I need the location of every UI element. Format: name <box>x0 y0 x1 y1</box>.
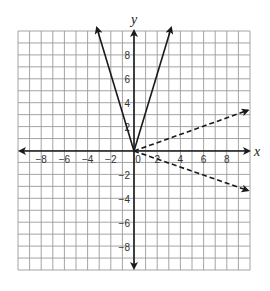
coordinate-plane: −8−6−4−2024688642−2−4−6−8 y x <box>0 0 270 291</box>
y-tick-label: −4 <box>119 194 131 205</box>
y-axis-label: y <box>129 12 138 27</box>
plot-line <box>97 28 134 151</box>
x-tick-label: −4 <box>82 154 94 165</box>
y-tick-label: 6 <box>124 74 130 85</box>
x-tick-label: 4 <box>178 154 184 165</box>
x-tick-label: 0 <box>135 154 141 165</box>
x-tick-label: −2 <box>105 154 117 165</box>
x-axis-label: x <box>253 144 261 159</box>
x-tick-label: −8 <box>35 154 47 165</box>
plot-line <box>134 110 248 151</box>
y-tick-label: −2 <box>119 170 131 181</box>
plot-line <box>134 28 171 151</box>
x-tick-label: −6 <box>59 154 71 165</box>
y-tick-label: −6 <box>119 218 131 229</box>
x-tick-label: 6 <box>201 154 207 165</box>
plot-line <box>134 151 248 190</box>
plotted-lines <box>97 28 248 191</box>
y-tick-label: 8 <box>124 50 130 61</box>
x-tick-label: 8 <box>224 154 230 165</box>
y-tick-label: −8 <box>119 242 131 253</box>
y-tick-label: 4 <box>124 98 130 109</box>
